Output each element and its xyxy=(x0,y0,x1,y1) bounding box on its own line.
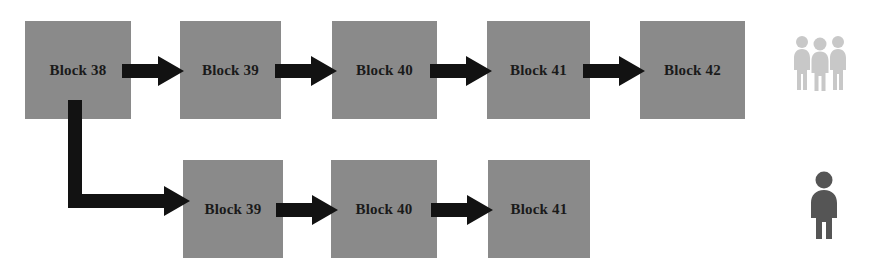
block-node-fork-40: Block 40 xyxy=(331,160,437,258)
arrow-block38-to-block39 xyxy=(122,56,184,86)
block-label: Block 41 xyxy=(510,202,567,217)
blockchain-fork-diagram: Block 38 Block 39 Block 40 Block 41 Bloc… xyxy=(0,0,871,270)
block-label: Block 40 xyxy=(355,202,412,217)
group-of-three-people-icon xyxy=(793,34,847,92)
block-node-main-39: Block 39 xyxy=(180,21,281,119)
block-label: Block 38 xyxy=(49,63,106,78)
block-label: Block 39 xyxy=(202,63,259,78)
block-label: Block 41 xyxy=(510,63,567,78)
block-label: Block 42 xyxy=(664,63,721,78)
block-node-main-42: Block 42 xyxy=(640,21,745,119)
block-node-main-40: Block 40 xyxy=(332,21,437,119)
arrow-block39-to-block40 xyxy=(275,56,337,86)
block-label: Block 40 xyxy=(356,63,413,78)
single-person-icon xyxy=(808,170,840,240)
arrow-fork-block40-to-block41 xyxy=(431,195,493,225)
block-node-fork-39: Block 39 xyxy=(183,160,283,258)
block-node-fork-41: Block 41 xyxy=(488,160,590,258)
arrow-block40-to-block41 xyxy=(430,56,492,86)
block-node-main-41: Block 41 xyxy=(487,21,590,119)
arrow-block41-to-block42 xyxy=(583,56,645,86)
block-label: Block 39 xyxy=(204,202,261,217)
fork-branch-connector-icon xyxy=(66,100,192,224)
arrow-fork-block39-to-block40 xyxy=(276,195,338,225)
